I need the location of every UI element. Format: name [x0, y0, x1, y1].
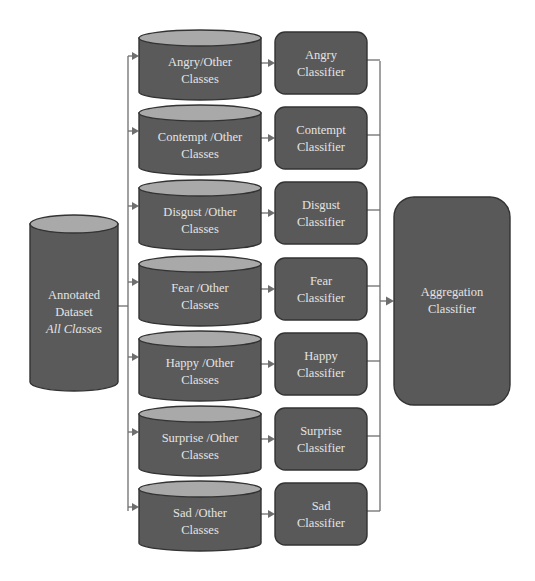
classifier-arrowhead — [268, 360, 275, 368]
aggregation-classifier-node: Aggregation Classifier — [394, 197, 510, 405]
classifier-arrowhead — [268, 285, 275, 293]
classifier-arrowhead — [268, 510, 275, 518]
dataset-label-line2: Classes — [181, 72, 219, 86]
classifier-box — [275, 408, 367, 470]
cylinder-body — [139, 264, 261, 326]
cylinder-body — [139, 339, 261, 401]
classifier-box — [275, 32, 367, 94]
cylinder-top — [139, 406, 261, 422]
dataset-label-line1: Sad /Other — [173, 506, 228, 520]
classifier-label-line1: Fear — [310, 274, 333, 288]
cylinder-body — [139, 113, 261, 175]
diagram-canvas: Annotated Dataset All Classes Angry/Othe… — [0, 0, 535, 581]
aggregation-classifier-box — [394, 197, 510, 405]
classifier-arrowhead — [268, 435, 275, 443]
binary-datasets: Angry/OtherClassesContempt /OtherClasses… — [139, 30, 261, 551]
aggregation-label-line1: Aggregation — [421, 285, 484, 299]
classifier-node-disgust: DisgustClassifier — [275, 182, 367, 244]
binary-classifiers: AngryClassifierContemptClassifierDisgust… — [275, 32, 367, 545]
classifier-label-line2: Classifier — [297, 140, 346, 154]
source-label-line3: All Classes — [45, 322, 102, 336]
dataset-arrowhead — [132, 428, 139, 436]
classifier-node-happy: HappyClassifier — [275, 333, 367, 395]
classifier-label-line1: Contempt — [296, 123, 346, 137]
dataset-arrowhead — [132, 503, 139, 511]
classifier-node-fear: FearClassifier — [275, 258, 367, 320]
cylinder-top — [139, 481, 261, 497]
classifier-arrowhead — [268, 59, 275, 67]
cylinder-top — [139, 105, 261, 121]
cylinder-body — [139, 414, 261, 476]
dataset-label-line2: Classes — [181, 373, 219, 387]
classifier-box — [275, 182, 367, 244]
classifier-arrowhead — [268, 134, 275, 142]
dataset-label-line1: Happy /Other — [166, 356, 235, 370]
classifier-box — [275, 258, 367, 320]
dataset-label-line2: Classes — [181, 298, 219, 312]
dataset-cylinder-happy: Happy /OtherClasses — [139, 331, 261, 401]
classifier-label-line2: Classifier — [297, 366, 346, 380]
dataset-cylinder-contempt: Contempt /OtherClasses — [139, 105, 261, 175]
dataset-cylinder-fear: Fear /OtherClasses — [139, 256, 261, 326]
dataset-label-line1: Surprise /Other — [162, 431, 240, 445]
classifier-label-line2: Classifier — [297, 441, 346, 455]
dataset-cylinder-disgust: Disgust /OtherClasses — [139, 180, 261, 250]
cylinder-body — [139, 489, 261, 551]
classifier-label-line2: Classifier — [297, 65, 346, 79]
dataset-arrowhead — [132, 52, 139, 60]
classifier-node-contempt: ContemptClassifier — [275, 107, 367, 169]
flow-diagram: Annotated Dataset All Classes Angry/Othe… — [0, 0, 535, 581]
classifier-node-angry: AngryClassifier — [275, 32, 367, 94]
dataset-label-line1: Fear /Other — [171, 281, 229, 295]
dataset-arrowhead — [132, 353, 139, 361]
classifier-label-line2: Classifier — [297, 215, 346, 229]
cylinder-top — [139, 30, 261, 46]
classifier-label-line1: Angry — [305, 48, 338, 62]
dataset-arrowhead — [132, 202, 139, 210]
annotated-dataset-cylinder: Annotated Dataset All Classes — [30, 215, 118, 391]
cylinder-top — [139, 331, 261, 347]
cylinder-body — [139, 188, 261, 250]
classifier-label-line1: Surprise — [300, 424, 342, 438]
cylinder-top — [139, 256, 261, 272]
source-cylinder-top — [30, 215, 118, 233]
classifier-node-surprise: SurpriseClassifier — [275, 408, 367, 470]
classifier-box — [275, 107, 367, 169]
dataset-label-line1: Angry/Other — [168, 55, 233, 69]
classifier-label-line2: Classifier — [297, 291, 346, 305]
dataset-cylinder-angry: Angry/OtherClasses — [139, 30, 261, 100]
dataset-cylinder-sad: Sad /OtherClasses — [139, 481, 261, 551]
dataset-arrowhead — [132, 127, 139, 135]
classifier-box — [275, 483, 367, 545]
classifier-label-line1: Disgust — [302, 198, 341, 212]
dataset-label-line2: Classes — [181, 222, 219, 236]
classifier-arrowhead — [268, 209, 275, 217]
cylinder-body — [139, 38, 261, 100]
cylinder-top — [139, 180, 261, 196]
source-label-line2: Dataset — [55, 305, 93, 319]
classifier-node-sad: SadClassifier — [275, 483, 367, 545]
classifier-label-line2: Classifier — [297, 516, 346, 530]
dataset-cylinder-surprise: Surprise /OtherClasses — [139, 406, 261, 476]
dataset-label-line2: Classes — [181, 523, 219, 537]
dataset-label-line2: Classes — [181, 448, 219, 462]
classifier-label-line1: Happy — [304, 349, 338, 363]
dataset-label-line1: Disgust /Other — [163, 205, 237, 219]
source-label-line1: Annotated — [48, 288, 101, 302]
aggregator-arrowhead — [386, 297, 394, 306]
aggregation-label-line2: Classifier — [428, 302, 477, 316]
dataset-label-line2: Classes — [181, 147, 219, 161]
classifier-label-line1: Sad — [312, 499, 332, 513]
dataset-arrowhead — [132, 278, 139, 286]
dataset-label-line1: Contempt /Other — [158, 130, 243, 144]
classifier-box — [275, 333, 367, 395]
